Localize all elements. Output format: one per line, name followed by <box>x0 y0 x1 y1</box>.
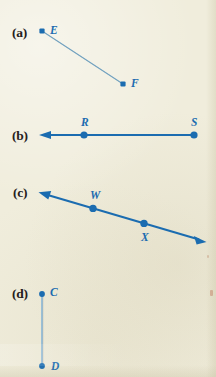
part-label-c: (c) <box>13 186 27 200</box>
figure-b-ray-rs <box>39 131 198 139</box>
point-e-dot <box>39 28 44 33</box>
point-label-f: F <box>131 78 139 90</box>
point-d-dot <box>39 363 45 369</box>
figure-d-segment-cd <box>39 291 45 369</box>
point-f-dot <box>120 81 125 86</box>
line-wx-arrowhead-upper-left <box>39 191 52 200</box>
segment-ef-line-shadow <box>42 31 123 84</box>
point-label-c: C <box>50 287 58 299</box>
point-w-dot <box>89 205 96 212</box>
geometry-figure-sheet: (a) (b) (c) (d) E F R S W X C D <box>0 0 216 377</box>
point-s-dot <box>190 131 197 138</box>
line-wx-line <box>46 195 199 240</box>
point-label-s: S <box>191 117 197 129</box>
ray-rs-arrowhead-left <box>39 131 51 139</box>
point-label-d: D <box>51 361 59 373</box>
point-label-w: W <box>90 190 100 202</box>
point-x-dot <box>140 220 147 227</box>
part-label-b: (b) <box>12 129 28 143</box>
point-r-dot <box>80 131 87 138</box>
part-label-d: (d) <box>12 287 28 301</box>
point-label-x: X <box>141 232 149 244</box>
point-label-r: R <box>81 117 89 129</box>
geometry-figure-canvas <box>0 0 216 377</box>
point-label-e: E <box>50 25 58 37</box>
line-wx-arrowhead-lower-right <box>194 236 207 245</box>
figure-c-line-wx <box>39 191 207 245</box>
point-c-dot <box>39 291 45 297</box>
part-label-a: (a) <box>12 26 27 40</box>
figure-a-segment-ef <box>39 28 125 86</box>
